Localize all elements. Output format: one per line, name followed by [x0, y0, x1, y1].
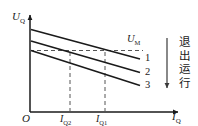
annotation-char-1: 退 [176, 36, 193, 50]
x-tick-label-iq1: IQ1 [96, 114, 107, 124]
origin-label: O [22, 113, 30, 124]
droop-characteristic-figure: UQ IQ O IQ2 IQ1 UM 1 2 3 退 出 运 行 [0, 0, 198, 126]
um-level-label: UM [127, 34, 140, 45]
curve-label-1: 1 [145, 53, 150, 64]
curve-label-3: 3 [145, 80, 150, 91]
y-axis-label: UQ [12, 11, 25, 22]
um-level-label-main: U [127, 33, 135, 44]
curve-label-2: 2 [145, 67, 150, 78]
figure-canvas [0, 0, 198, 126]
x-tick-label-iq2: IQ2 [60, 114, 71, 124]
x-tick-label-iq2-sub: Q2 [63, 119, 71, 126]
x-tick-label-iq1-sub: Q1 [99, 119, 107, 126]
x-axis-label: IQ [172, 111, 181, 122]
y-axis-label-main: U [12, 10, 20, 22]
exit-operation-annotation: 退 出 运 行 [176, 36, 193, 90]
y-axis-label-sub: Q [20, 17, 25, 25]
droop-curve-1 [31, 30, 140, 60]
annotation-char-3: 运 [176, 63, 193, 77]
annotation-char-4: 行 [176, 77, 193, 91]
annotation-char-2: 出 [176, 50, 193, 64]
x-axis-label-sub: Q [176, 117, 181, 125]
um-level-label-sub: M [135, 39, 141, 46]
